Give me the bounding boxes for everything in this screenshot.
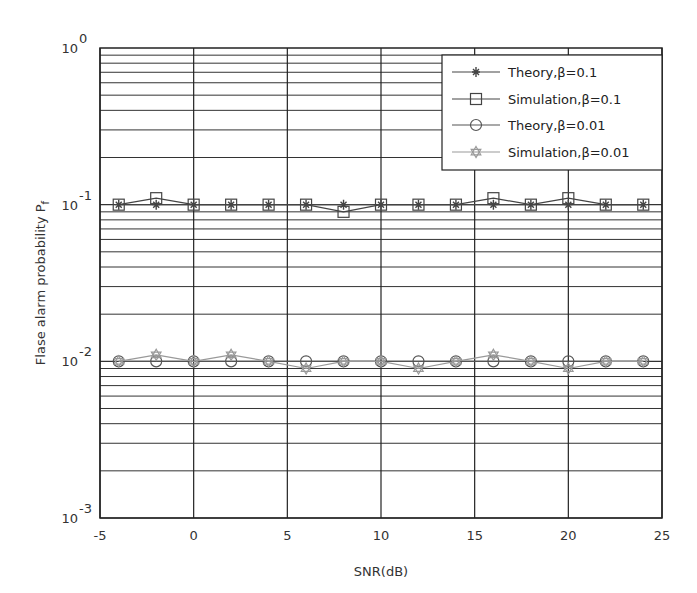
legend-label: Theory,β=0.1 [507,65,597,80]
y-tick-label: 10 [61,41,78,56]
y-tick-exponent: -1 [79,188,92,203]
y-tick-exponent: -2 [79,344,92,359]
x-axis-ticks: -50510152025 [94,528,671,543]
x-tick-label: 20 [560,528,577,543]
legend-label: Theory,β=0.01 [507,118,605,133]
y-tick-exponent: 0 [79,31,87,46]
legend-label: Simulation,β=0.01 [508,145,630,160]
x-axis-label: SNR(dB) [354,564,408,579]
legend: Theory,β=0.1Simulation,β=0.1Theory,β=0.0… [442,55,662,170]
svg-text:Flase alarm probability Pf: Flase alarm probability Pf [33,200,51,365]
y-tick-label: 10 [61,198,78,213]
x-tick-label: 5 [283,528,291,543]
x-tick-label: 25 [654,528,671,543]
x-tick-label: 10 [373,528,390,543]
y-tick-label: 10 [61,354,78,369]
y-axis-label: Flase alarm probability Pf [33,200,51,365]
x-tick-label: 0 [190,528,198,543]
legend-label: Simulation,β=0.1 [508,92,621,107]
x-tick-label: -5 [94,528,107,543]
y-tick-label: 10 [61,511,78,526]
chart-canvas: -50510152025 10010-110-210-3 SNR(dB) Fla… [0,0,697,593]
x-tick-label: 15 [466,528,483,543]
y-axis-ticks: 10010-110-210-3 [61,31,92,526]
y-tick-exponent: -3 [79,501,92,516]
